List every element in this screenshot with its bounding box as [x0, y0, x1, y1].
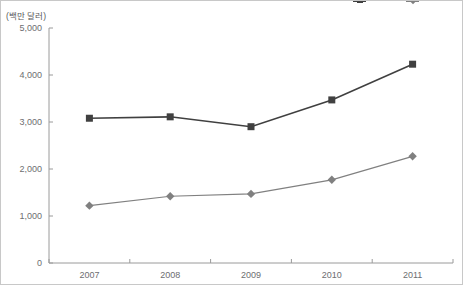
plot-area: 01,0002,0003,0004,0005,00020072008200920… [1, 1, 463, 285]
y-tick-label-4000: 4,000 [19, 70, 42, 80]
series-layer [85, 61, 417, 210]
axis-layer [49, 28, 453, 263]
x-tick-label-2010: 2010 [322, 270, 342, 280]
y-tick-label-0: 0 [37, 258, 42, 268]
chart-figure: (백만 달러) 01,0002,0003,0004,0005,000200720… [0, 0, 463, 285]
y-tick-label-1000: 1,000 [19, 211, 42, 221]
series-2-marker-2009[interactable] [247, 190, 255, 198]
x-tick-label-2011: 2011 [403, 270, 422, 280]
series-1-marker-2011[interactable] [409, 61, 416, 68]
series-1-marker-2009[interactable] [248, 123, 255, 130]
series-1-marker-2008[interactable] [167, 113, 174, 120]
series-1-marker-2010[interactable] [328, 96, 335, 103]
x-tick-label-2009: 2009 [241, 270, 261, 280]
series-1-line [89, 64, 412, 127]
tick-label-layer: 01,0002,0003,0004,0005,00020072008200920… [19, 23, 422, 280]
chart-svg: 01,0002,0003,0004,0005,00020072008200920… [1, 1, 463, 285]
y-tick-label-3000: 3,000 [19, 117, 42, 127]
series-2-marker-2008[interactable] [166, 192, 174, 200]
x-tick-label-2007: 2007 [79, 270, 99, 280]
series-2-marker-2010[interactable] [328, 176, 336, 184]
x-tick-label-2008: 2008 [160, 270, 180, 280]
series-1-marker-2007[interactable] [86, 115, 93, 122]
y-tick-label-2000: 2,000 [19, 164, 42, 174]
series-2-line [89, 156, 412, 205]
series-2-marker-2011[interactable] [408, 152, 416, 160]
series-2-marker-2007[interactable] [85, 201, 93, 209]
series-1-group [86, 61, 416, 131]
y-tick-label-5000: 5,000 [19, 23, 42, 33]
series-2-group [85, 152, 417, 210]
